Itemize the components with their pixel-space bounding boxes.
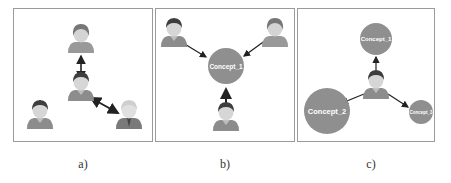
caption-b: b) [210,157,240,172]
person-icon [363,70,389,99]
concept-label: Concept_3 [409,110,433,115]
person-icon [116,100,142,129]
caption-a: a) [68,157,98,172]
concept-label: Concept_2 [308,107,346,116]
panel-b: Concept_1 [155,8,295,142]
panel-c: Concept_1 Concept_2 Concept_3 [297,8,435,142]
bidirectional-arrow [91,98,118,113]
panel-b-diagram: Concept_1 [156,9,296,143]
caption-c: c) [356,157,386,172]
concept-label: Concept_1 [361,36,392,42]
person-icon [213,102,239,131]
person-icon [68,24,94,53]
person-icon [27,100,53,129]
panel-c-diagram: Concept_1 Concept_2 Concept_3 [298,9,436,143]
panel-a [13,8,153,142]
panel-a-diagram [14,9,154,143]
person-icon [262,18,288,47]
person-icon [161,18,187,47]
person-icon [68,72,94,101]
arrow [388,94,408,107]
concept-label: Concept_1 [209,63,243,71]
